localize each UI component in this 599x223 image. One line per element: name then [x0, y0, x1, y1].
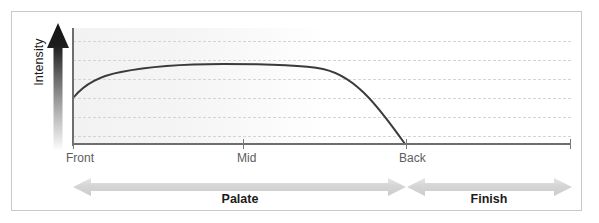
- chart-figure: Intensity: [0, 0, 599, 223]
- x-tick-front: [73, 139, 74, 149]
- x-tick-mid: [243, 139, 244, 149]
- intensity-up-arrow-icon: [46, 22, 70, 150]
- x-tick-label-back: Back: [399, 151, 426, 165]
- y-axis-group: Intensity: [22, 22, 70, 150]
- segment-label-palate: Palate: [200, 192, 280, 206]
- x-tick-end: [570, 139, 571, 149]
- x-tick-back: [406, 139, 407, 149]
- x-tick-label-front: Front: [66, 151, 94, 165]
- x-axis-line: [72, 143, 571, 145]
- y-axis-line: [72, 28, 74, 146]
- intensity-curve: [73, 28, 571, 146]
- x-tick-label-mid: Mid: [237, 151, 256, 165]
- segment-label-finish: Finish: [449, 192, 529, 206]
